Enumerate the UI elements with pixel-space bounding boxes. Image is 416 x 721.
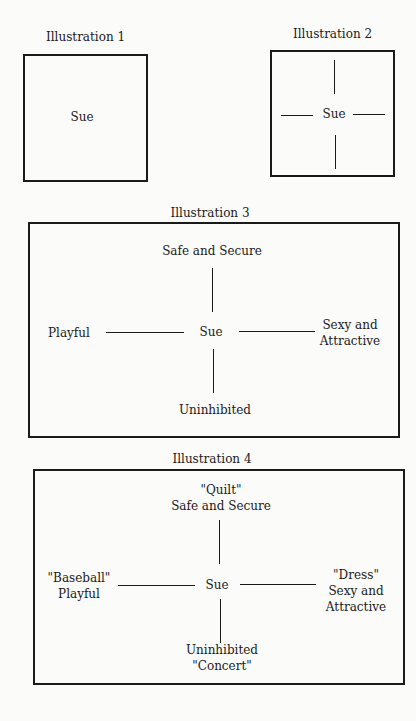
label-top-line2: Safe and Secure	[171, 499, 271, 514]
illustration-2-title: Illustration 2	[293, 27, 372, 42]
label-bottom-line2: "Concert"	[192, 659, 252, 674]
label-right-line2: Sexy and	[328, 584, 383, 599]
axis-line-right	[353, 114, 385, 115]
label-left-line1: "Baseball"	[48, 571, 111, 586]
illustration-4-title: Illustration 4	[172, 452, 251, 467]
axis-line-bottom	[213, 349, 214, 393]
axis-line-right	[239, 331, 315, 332]
axis-line-bottom	[220, 599, 221, 643]
label-top: Safe and Secure	[162, 244, 262, 259]
illustration-2-center-label: Sue	[322, 107, 345, 122]
label-left: Playful	[48, 326, 90, 341]
label-right-line2: Attractive	[320, 334, 380, 349]
axis-line-top	[212, 268, 213, 312]
illustration-3-title: Illustration 3	[170, 206, 249, 221]
axis-line-left	[281, 115, 313, 116]
illustration-3-center-label: Sue	[199, 325, 222, 340]
axis-line-right	[240, 584, 316, 585]
label-bottom: Uninhibited	[179, 403, 251, 418]
axis-line-top	[334, 60, 335, 94]
illustration-1-center-label: Sue	[70, 110, 93, 125]
axis-line-left	[118, 585, 195, 586]
label-right-line1: Sexy and	[322, 318, 377, 333]
axis-line-left	[106, 332, 184, 333]
illustration-4-center-label: Sue	[205, 578, 228, 593]
label-top-line1: "Quilt"	[200, 483, 241, 498]
label-right-line3: Attractive	[326, 600, 386, 615]
axis-line-top	[219, 520, 220, 564]
illustration-1-title: Illustration 1	[46, 30, 125, 45]
axis-line-bottom	[335, 135, 336, 169]
label-bottom-line1: Uninhibited	[186, 643, 258, 658]
label-left-line2: Playful	[58, 587, 100, 602]
label-right-line1: "Dress"	[333, 568, 379, 583]
